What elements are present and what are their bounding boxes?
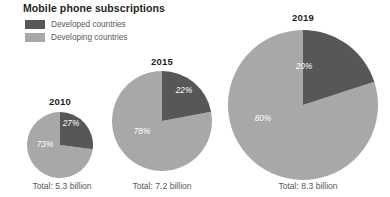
pie-slice-label-developed-2019: 20% (287, 62, 321, 71)
pie-slice-label-developed-2010: 27% (55, 119, 87, 128)
pie-slice-developed-2010 (60, 112, 93, 149)
pie-svg-2019 (228, 30, 378, 180)
pie-chart-2019: 2019 20% 80% Total: 8.3 billion (225, 0, 390, 197)
pie-total-label-2019: Total: 8.3 billion (250, 181, 366, 191)
pie-slice-label-developing-2019: 80% (246, 114, 280, 123)
pie-slice-label-developing-2015: 78% (126, 127, 158, 136)
pie-slices-2019 (228, 30, 378, 180)
pie-slice-label-developing-2010: 73% (29, 140, 61, 149)
pie-year-label-2019: 2019 (273, 12, 333, 23)
pie-total-label-2015: Total: 7.2 billion (104, 181, 220, 191)
pie-chart-2015: 2015 22% 78% Total: 7.2 billion (110, 0, 230, 197)
pie-year-label-2010: 2010 (27, 96, 93, 107)
mobile-phone-subscriptions-pie-figure: Mobile phone subscriptions Developed cou… (0, 0, 390, 197)
pie-year-label-2015: 2015 (132, 56, 192, 67)
pie-slice-label-developed-2015: 22% (168, 86, 200, 95)
